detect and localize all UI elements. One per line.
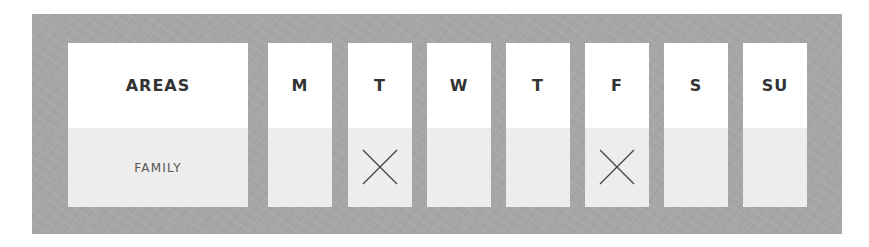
area-label-family: FAMILY <box>68 128 248 207</box>
x-mark-icon <box>599 149 635 185</box>
day-column: F <box>585 43 649 207</box>
day-column: T <box>506 43 570 207</box>
day-header: T <box>506 43 570 128</box>
areas-header: AREAS <box>68 43 248 128</box>
day-header: SU <box>743 43 807 128</box>
day-column: T <box>348 43 412 207</box>
day-cell-family[interactable] <box>664 128 728 207</box>
day-column: M <box>268 43 332 207</box>
day-cell-family[interactable] <box>506 128 570 207</box>
areas-column: AREAS FAMILY <box>68 43 248 207</box>
day-header: S <box>664 43 728 128</box>
day-header: F <box>585 43 649 128</box>
day-header: M <box>268 43 332 128</box>
day-column: W <box>427 43 491 207</box>
x-mark-icon <box>362 149 398 185</box>
day-column: S <box>664 43 728 207</box>
day-cell-family[interactable] <box>268 128 332 207</box>
day-header: W <box>427 43 491 128</box>
day-column: SU <box>743 43 807 207</box>
day-cell-family[interactable] <box>743 128 807 207</box>
day-header: T <box>348 43 412 128</box>
day-cell-family[interactable] <box>427 128 491 207</box>
